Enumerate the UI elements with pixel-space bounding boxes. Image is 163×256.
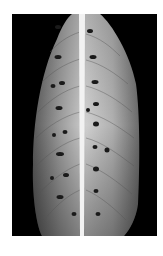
leaf-illustration	[12, 14, 157, 236]
leaf-midrib	[79, 14, 85, 236]
leaf-photograph	[12, 14, 157, 236]
